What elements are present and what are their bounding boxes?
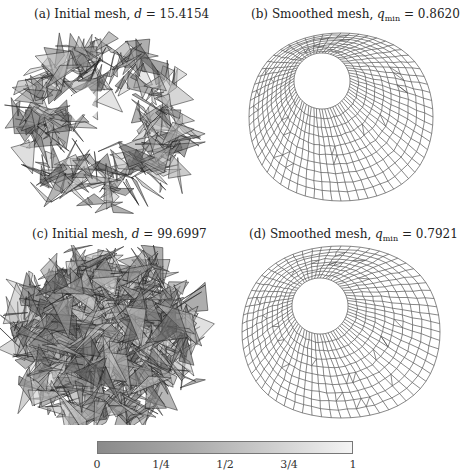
quality-colorbar bbox=[97, 441, 353, 454]
colorbar-tick-1: 1 bbox=[350, 458, 357, 471]
panel-b-smoothed-mesh bbox=[221, 25, 442, 215]
panel-c-tangled-mesh bbox=[0, 245, 221, 425]
caption-c: (c) Initial mesh, d = 99.6997 bbox=[32, 227, 207, 241]
colorbar-tick-half: 1/2 bbox=[216, 458, 234, 471]
colorbar-tick-quarter: 1/4 bbox=[152, 458, 170, 471]
panel-d-smoothed-mesh bbox=[221, 242, 442, 422]
panel-a-tangled-mesh bbox=[0, 25, 221, 215]
colorbar-tick-three-quarter: 3/4 bbox=[280, 458, 298, 471]
colorbar-tick-0: 0 bbox=[94, 458, 101, 471]
caption-a: (a) Initial mesh, d = 15.4154 bbox=[34, 7, 209, 21]
caption-b: (b) Smoothed mesh, qmin = 0.8620 bbox=[251, 7, 460, 26]
